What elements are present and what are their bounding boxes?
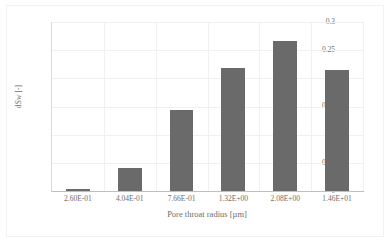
x-axis-tick-label: 7.66E-01 (156, 194, 208, 203)
bar-slot (52, 22, 104, 191)
y-axis-title: dSw [-] (14, 62, 23, 132)
x-axis-tick-label: 2.60E-01 (52, 194, 104, 203)
x-axis-tick-label: 4.04E-01 (104, 194, 156, 203)
x-axis-tick-label: 2.08E+00 (259, 194, 311, 203)
bar-slot (259, 22, 311, 191)
bar[interactable] (325, 70, 349, 191)
x-axis-tick-labels: 2.60E-01 4.04E-01 7.66E-01 1.32E+00 2.08… (52, 194, 363, 203)
bar-slot (104, 22, 156, 191)
x-axis-tick-label: 1.32E+00 (207, 194, 259, 203)
bar[interactable] (273, 41, 297, 191)
x-axis-tick-label: 1.46E+01 (311, 194, 363, 203)
gridline-vertical (363, 22, 364, 191)
bar[interactable] (118, 168, 142, 191)
bar-slot (311, 22, 363, 191)
chart-container: dSw [-] 0.3 0.25 0.2 0.15 0.1 0.05 0 2.6… (6, 5, 384, 237)
bar[interactable] (221, 68, 245, 191)
bar[interactable] (170, 110, 194, 191)
x-axis-title: Pore throat radius [µm] (51, 209, 363, 219)
bar-series (52, 22, 363, 191)
bar-slot (207, 22, 259, 191)
bar-slot (156, 22, 208, 191)
bar[interactable] (66, 189, 90, 191)
